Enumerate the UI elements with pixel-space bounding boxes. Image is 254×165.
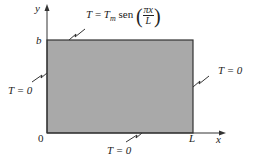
y-axis-label: y — [35, 2, 40, 14]
y-tick-b-label: b — [36, 34, 42, 46]
y-axis-arrow-icon — [45, 4, 50, 11]
fraction: πxL — [143, 5, 154, 26]
left-leader-line — [32, 73, 47, 82]
left-boundary-condition: T = 0 — [8, 84, 32, 96]
right-boundary-condition: T = 0 — [218, 64, 242, 76]
bottom-boundary-condition: T = 0 — [107, 144, 131, 156]
plate-rectangle — [47, 40, 193, 133]
right-leader-line — [193, 76, 209, 87]
x-tick-l-label: L — [189, 132, 195, 144]
top-leader-line — [69, 29, 85, 40]
bottom-leader-line — [126, 133, 142, 142]
origin-label: 0 — [38, 132, 44, 144]
x-axis-label: x — [216, 133, 221, 145]
top-boundary-condition: T = Tm sen (πxL) — [86, 5, 161, 26]
